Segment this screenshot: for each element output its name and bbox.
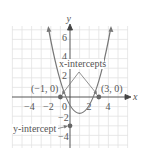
x-tick-neg4: −4 [24, 101, 35, 112]
point-x-intercept-left [58, 95, 63, 100]
y-tick-neg2: −2 [58, 112, 69, 123]
point-left-label: (−1, 0) [31, 83, 58, 95]
x-axis-label: x [132, 91, 138, 102]
curve-arrow-right-icon [109, 26, 114, 32]
y-tick-6: 6 [62, 32, 67, 43]
x-tick-4: 4 [106, 101, 111, 112]
x-tick-0: 0 [62, 101, 67, 112]
x-intercepts-label: x-intercepts [59, 58, 106, 69]
point-x-intercept-right [96, 95, 101, 100]
point-y-intercept [68, 123, 73, 128]
y-intercept-label: y-intercept [13, 123, 57, 134]
y-axis-label: y [66, 13, 72, 24]
y-tick-2: 2 [62, 70, 67, 81]
y-axis-arrow-icon [68, 24, 73, 30]
point-right-label: (3, 0) [101, 83, 123, 95]
x-tick-neg2: −2 [43, 101, 54, 112]
parabola-graph: x y −4 −2 0 2 4 6 4 2 −2 −4 (−1, 0) (3, … [0, 0, 145, 157]
y-tick-neg4: −4 [58, 131, 69, 142]
